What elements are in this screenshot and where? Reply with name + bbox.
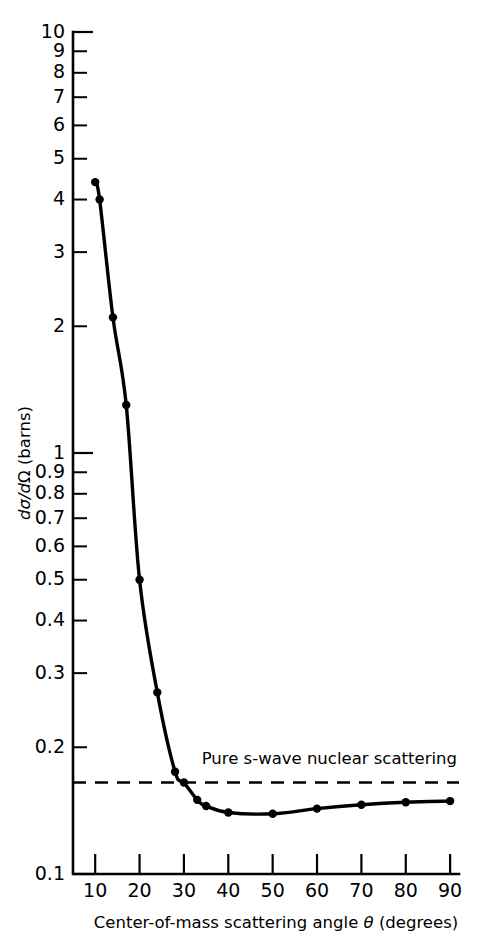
y-axis-units: (barns) — [15, 406, 34, 470]
y-tick-label: 4 — [53, 187, 65, 209]
data-point-marker — [91, 178, 99, 186]
x-tick-label: 30 — [172, 879, 196, 901]
y-tick-label: 0.3 — [35, 661, 65, 683]
y-tick-label: 0.2 — [35, 735, 65, 757]
figure-container: 109876543210.90.80.70.60.50.40.30.20.1 1… — [0, 0, 495, 946]
y-tick-label: 0.6 — [35, 534, 65, 556]
x-tick-label: 20 — [127, 879, 151, 901]
data-point-marker — [109, 313, 117, 321]
y-tick-label: 5 — [53, 146, 65, 168]
sigma-symbol: σ — [15, 498, 34, 509]
reference-line-annotation: Pure s-wave nuclear scattering — [202, 749, 457, 768]
y-tick-label: 9 — [53, 39, 65, 61]
theta-symbol: θ — [364, 913, 374, 932]
scattering-cross-section-chart: 109876543210.90.80.70.60.50.40.30.20.1 1… — [0, 0, 495, 946]
omega-symbol: Ω — [15, 470, 34, 483]
x-axis-tick-labels: 102030405060708090 — [83, 879, 462, 901]
y-tick-label: 0.1 — [35, 862, 65, 884]
data-point-marker — [122, 401, 130, 409]
y-tick-label: 0.8 — [35, 481, 65, 503]
data-point-marker — [268, 810, 276, 818]
data-point-marker — [357, 801, 365, 809]
x-axis-title: Center-of-mass scattering angle θ (degre… — [94, 913, 458, 932]
y-axis-title: dσ/dΩ (barns) — [15, 406, 34, 520]
data-point-marker — [313, 804, 321, 812]
x-tick-label: 90 — [438, 879, 462, 901]
x-tick-label: 80 — [394, 879, 418, 901]
y-tick-label: 0.5 — [35, 567, 65, 589]
x-tick-label: 60 — [305, 879, 329, 901]
data-point-marker — [446, 797, 454, 805]
data-point-marker — [402, 798, 410, 806]
y-tick-label: 0.7 — [35, 506, 65, 528]
data-point-marker — [171, 767, 179, 775]
x-axis-title-prefix: Center-of-mass scattering angle — [94, 913, 364, 932]
x-tick-label: 40 — [216, 879, 240, 901]
y-tick-label: 6 — [53, 113, 65, 135]
y-tick-label: 8 — [53, 60, 65, 82]
data-point-marker — [135, 576, 143, 584]
y-tick-label: 0.4 — [35, 608, 65, 630]
y-tick-label: 0.9 — [35, 460, 65, 482]
data-point-marker — [202, 802, 210, 810]
x-tick-label: 70 — [349, 879, 373, 901]
data-point-marker — [95, 195, 103, 203]
y-tick-label: 3 — [53, 240, 65, 262]
d-symbol-denominator: d — [15, 482, 34, 493]
data-point-marker — [153, 688, 161, 696]
y-tick-label: 7 — [53, 85, 65, 107]
x-tick-label: 10 — [83, 879, 107, 901]
x-tick-label: 50 — [261, 879, 285, 901]
data-point-marker — [180, 778, 188, 786]
y-tick-label: 2 — [53, 314, 65, 336]
x-axis-title-suffix: (degrees) — [374, 913, 459, 932]
data-point-marker — [193, 796, 201, 804]
data-point-marker — [224, 808, 232, 816]
d-symbol-numerator: d — [15, 509, 34, 520]
